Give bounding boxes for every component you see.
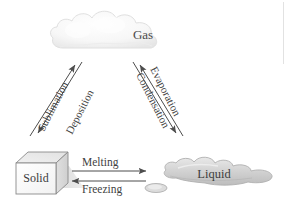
freezing-label: Freezing <box>82 184 122 196</box>
liquid-label: Liquid <box>186 168 242 181</box>
gas-label: Gas <box>0 28 286 41</box>
solid-label: Solid <box>14 172 58 184</box>
melting-label: Melting <box>82 157 118 169</box>
liquid-droplet-shape <box>145 184 167 193</box>
phase-change-diagram: Gas Solid Liquid Sublimation Deposition … <box>0 0 286 210</box>
